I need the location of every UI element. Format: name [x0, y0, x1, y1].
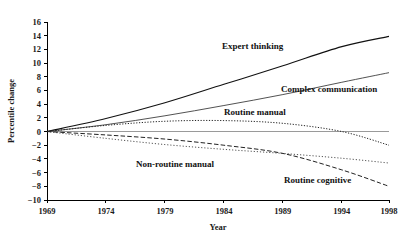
- x-axis-tick-labels: 1969197419791984198919941998: [39, 206, 398, 216]
- x-tick-label: 1979: [156, 206, 173, 216]
- series-label-routine-manual: Routine manual: [224, 107, 286, 117]
- chart-container: 1614121086420−2−4−6−8−10 196919741979198…: [0, 0, 413, 235]
- series-lines: [47, 36, 389, 186]
- series-line-complex-communication: [47, 73, 389, 132]
- y-tick-label: 0: [37, 127, 41, 137]
- y-axis-title: Percentile change: [6, 79, 16, 143]
- y-tick-label: 10: [33, 58, 42, 68]
- y-tick-label: −2: [32, 140, 41, 150]
- series-label-non-routine-manual: Non-routine manual: [136, 159, 215, 169]
- y-tick-label: −6: [32, 168, 41, 178]
- x-tick-label: 1969: [39, 206, 56, 216]
- series-label-expert-thinking: Expert thinking: [222, 41, 284, 51]
- y-tick-label: −8: [32, 181, 41, 191]
- x-tick-label: 1998: [381, 206, 398, 216]
- y-tick-label: 16: [33, 17, 42, 27]
- y-tick-label: −4: [32, 154, 42, 164]
- y-tick-label: 8: [37, 72, 41, 82]
- series-line-non-routine-manual: [47, 132, 389, 163]
- y-axis-tick-labels: 1614121086420−2−4−6−8−10: [28, 17, 42, 205]
- y-tick-label: 4: [37, 99, 42, 109]
- y-tick-label: −10: [28, 195, 41, 205]
- x-tick-label: 1989: [274, 206, 291, 216]
- x-axis-title: Year: [210, 222, 227, 232]
- y-tick-label: 6: [37, 85, 41, 95]
- x-tick-label: 1984: [215, 206, 233, 216]
- series-line-routine-manual: [47, 120, 389, 145]
- y-tick-label: 12: [33, 44, 42, 54]
- line-chart: 1614121086420−2−4−6−8−10 196919741979198…: [0, 0, 413, 235]
- y-tick-label: 14: [33, 31, 42, 41]
- series-label-complex-communication: Complex communication: [281, 84, 377, 94]
- series-annotations: Expert thinkingComplex communicationRout…: [136, 41, 377, 185]
- x-tick-label: 1974: [97, 206, 115, 216]
- x-tick-label: 1994: [333, 206, 351, 216]
- series-label-routine-cognitive: Routine cognitive: [284, 175, 351, 185]
- y-tick-label: 2: [37, 113, 41, 123]
